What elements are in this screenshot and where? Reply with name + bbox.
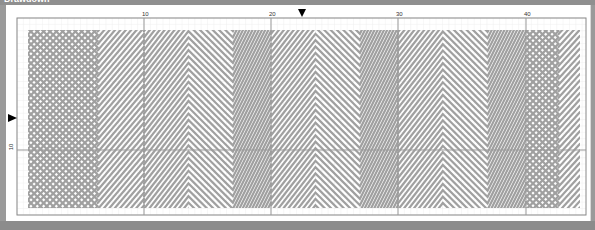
- column-label: 30: [396, 11, 403, 17]
- bottom-frame: [0, 221, 595, 230]
- column-label: 40: [524, 11, 531, 17]
- column-label: 10: [142, 11, 149, 17]
- row-label: 10: [8, 144, 14, 151]
- column-position-marker[interactable]: [298, 9, 306, 17]
- row-position-marker[interactable]: [8, 114, 17, 122]
- column-label: 20: [269, 11, 276, 17]
- drawdown-canvas[interactable]: [0, 0, 595, 230]
